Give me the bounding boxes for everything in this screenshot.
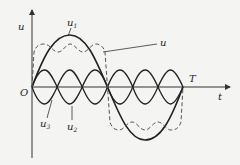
- time-axis-label: t: [218, 91, 223, 102]
- period-label: T: [189, 73, 197, 84]
- waveform-diagram: u O t T u1 u u3 u2: [0, 0, 240, 165]
- label-u3: u3: [40, 118, 50, 130]
- label-u1: u1: [67, 17, 77, 29]
- vertical-axis-label: u: [18, 21, 24, 32]
- label-u2: u2: [67, 121, 77, 133]
- origin-label: O: [20, 87, 28, 98]
- leader-u: [103, 44, 157, 52]
- label-u-resultant: u: [160, 37, 166, 48]
